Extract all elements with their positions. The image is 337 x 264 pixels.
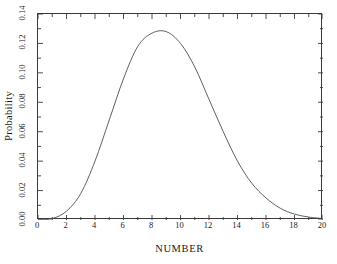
x-axis-title: NUMBER	[37, 243, 322, 254]
plot-area	[37, 13, 322, 219]
x-tick-label: 12	[204, 221, 213, 230]
x-tick-label: 8	[149, 221, 153, 230]
x-tick-label: 10	[175, 221, 184, 230]
y-tick-label: 0.04	[18, 153, 27, 168]
y-tick-label: 0.10	[18, 64, 27, 79]
y-tick-label: 0.00	[18, 212, 27, 227]
x-axis-minor-ticks	[52, 14, 309, 220]
x-tick-label: 20	[318, 221, 327, 230]
x-tick-label: 6	[120, 221, 124, 230]
x-tick-label: 2	[63, 221, 67, 230]
x-tick-label: 4	[92, 221, 96, 230]
plot-canvas	[38, 14, 323, 220]
chart-figure: 0.000.020.040.060.080.100.120.14 Probabi…	[0, 0, 337, 264]
y-tick-label: 0.14	[18, 6, 27, 21]
x-tick-label: 14	[232, 221, 241, 230]
y-tick-label: 0.02	[18, 182, 27, 197]
y-tick-label: 0.12	[18, 35, 27, 50]
probability-distribution-curve	[38, 31, 323, 220]
y-tick-label: 0.06	[18, 123, 27, 138]
x-tick-label: 0	[35, 221, 39, 230]
y-tick-label: 0.08	[18, 94, 27, 109]
y-axis-minor-ticks	[38, 29, 323, 206]
x-axis-major-ticks	[38, 14, 323, 220]
x-tick-label: 16	[261, 221, 270, 230]
y-axis-major-ticks	[38, 14, 323, 220]
y-axis-title: Probability	[3, 91, 14, 141]
x-tick-label: 18	[289, 221, 298, 230]
